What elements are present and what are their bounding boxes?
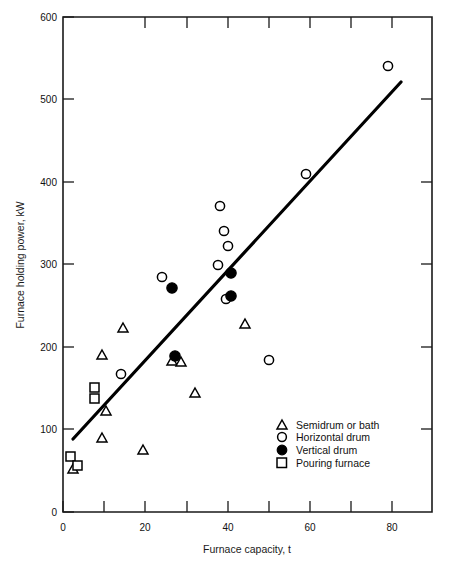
- legend-label-pouring-furnace: Pouring furnace: [296, 457, 370, 469]
- data-point: [226, 268, 236, 278]
- x-tick-label-20: 20: [139, 522, 151, 533]
- data-point: [138, 445, 148, 454]
- y-tick-label-100: 100: [40, 424, 57, 435]
- plot-border: [63, 17, 432, 512]
- y-axis-right-ticks: [421, 99, 432, 429]
- data-point: [66, 452, 75, 461]
- data-point: [167, 283, 177, 293]
- y-axis-tick-labels: 600 500 400 300 200 100 0: [40, 12, 57, 518]
- data-point: [157, 272, 166, 281]
- legend-label-semidrum: Semidrum or bath: [296, 419, 380, 431]
- data-point: [383, 61, 392, 70]
- data-point: [116, 369, 125, 378]
- legend-marker-triangle-icon: [277, 420, 287, 429]
- y-tick-label-200: 200: [40, 342, 57, 353]
- legend-marker-circle-open-icon: [278, 433, 287, 442]
- y-tick-label-400: 400: [40, 177, 57, 188]
- data-point: [240, 319, 250, 328]
- data-point: [90, 394, 99, 403]
- data-point: [301, 169, 310, 178]
- data-point: [264, 355, 273, 364]
- data-point: [190, 388, 200, 397]
- legend-label-horizontal-drum: Horizontal drum: [296, 431, 370, 443]
- data-point: [170, 351, 180, 361]
- x-axis-ticks: [63, 501, 392, 512]
- legend-label-vertical-drum: Vertical drum: [296, 444, 358, 456]
- data-point: [219, 226, 228, 235]
- y-tick-label-500: 500: [40, 94, 57, 105]
- data-point: [213, 260, 222, 269]
- legend-marker-square-icon: [277, 458, 287, 468]
- data-point: [118, 323, 128, 332]
- x-tick-label-60: 60: [304, 522, 316, 533]
- y-tick-label-300: 300: [40, 259, 57, 270]
- x-axis-top-ticks: [145, 17, 392, 28]
- x-axis-tick-labels: 0 20 40 60 80: [60, 522, 398, 533]
- y-tick-label-600: 600: [40, 12, 57, 23]
- y-axis-title: Furnace holding power, kW: [14, 201, 26, 328]
- data-point: [97, 350, 107, 359]
- x-tick-label-0: 0: [60, 522, 66, 533]
- plot-frame: [63, 17, 432, 512]
- trend-line: [73, 82, 401, 439]
- scatter-chart: 600 500 400 300 200 100 0 0: [0, 0, 450, 570]
- x-tick-label-40: 40: [222, 522, 234, 533]
- data-point: [215, 201, 224, 210]
- x-tick-label-80: 80: [386, 522, 398, 533]
- series-vertical-drum: [167, 268, 236, 361]
- x-axis-title: Furnace capacity, t: [203, 543, 291, 555]
- legend-marker-circle-filled-icon: [277, 445, 287, 455]
- data-point: [73, 461, 82, 470]
- data-point: [97, 433, 107, 442]
- data-point: [90, 383, 99, 392]
- data-point: [223, 241, 232, 250]
- data-point: [226, 291, 236, 301]
- series-horizontal-drum: [116, 61, 392, 378]
- y-tick-label-0: 0: [51, 507, 57, 518]
- chart-legend: Semidrum or bath Horizontal drum Vertica…: [277, 419, 380, 469]
